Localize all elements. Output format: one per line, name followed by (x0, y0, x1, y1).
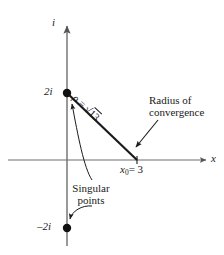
point-label-2i: 2i (44, 85, 53, 97)
singular-lower-leader-arrow (70, 206, 92, 219)
singular-point-2i-marker (63, 89, 71, 97)
singular-points-annotation: Singular points (60, 182, 122, 207)
complex-plane-figure: i x 2i –2i x0= 3 ρ = √13 Radius of conve… (0, 0, 224, 255)
real-axis-label: x (211, 152, 216, 164)
radius-annotation-line-2: convergence (149, 106, 204, 118)
point-label-minus-2i: –2i (37, 220, 51, 232)
x0-value: = 3 (129, 163, 143, 175)
radius-annotation-line-1: Radius of (149, 94, 204, 106)
singular-annotation-line-1: Singular (60, 182, 122, 194)
figure-canvas (0, 0, 224, 255)
singular-annotation-line-2: points (60, 194, 122, 206)
radius-of-convergence-annotation: Radius of convergence (149, 94, 204, 119)
radius-leader-arrow (136, 120, 158, 147)
imaginary-axis-label: i (52, 16, 55, 28)
singular-point-minus-2i-marker (63, 224, 71, 232)
x0-label: x0= 3 (120, 163, 143, 177)
